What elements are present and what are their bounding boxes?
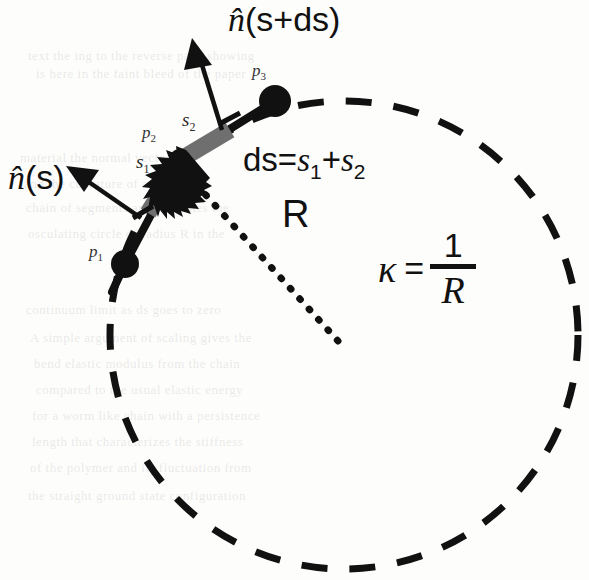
fraction-denominator: R <box>442 269 465 309</box>
diagram-vector-layer <box>0 0 589 580</box>
fraction-one-over-R: 1 R <box>430 228 476 309</box>
kappa-symbol: κ <box>378 247 396 291</box>
point-label-p2: p2 <box>142 124 156 144</box>
radius-line <box>203 192 338 341</box>
segment-label-s2: s2 <box>182 110 195 133</box>
node-p1 <box>111 250 139 278</box>
point-label-p1: p1 <box>89 243 103 263</box>
label-n-s: n̂(s) <box>8 160 65 195</box>
normal-vector-ns-arrow <box>66 166 141 218</box>
label-n-s-plus-ds: n̂(s+ds) <box>228 2 340 37</box>
point-label-p3: p3 <box>252 62 266 82</box>
formula-ds: ds=s1+s2 <box>243 143 365 182</box>
equals-sign: = <box>404 249 424 288</box>
segment-label-s1: s1 <box>136 152 149 175</box>
formula-curvature: κ = 1 R <box>378 228 476 309</box>
diagram-canvas: text the ing to the reverse page showing… <box>0 0 589 580</box>
label-radius-R: R <box>282 195 309 233</box>
node-p3 <box>259 85 291 117</box>
fraction-numerator: 1 <box>444 228 463 264</box>
